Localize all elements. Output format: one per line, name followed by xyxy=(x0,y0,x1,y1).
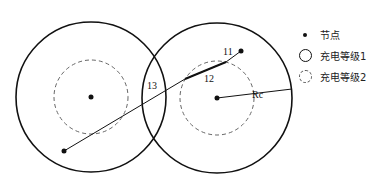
legend-item-node: 节点 xyxy=(295,24,366,45)
node-right-center xyxy=(215,96,220,101)
node-left-center xyxy=(89,95,94,100)
label-rc: Rc xyxy=(252,89,264,100)
legend-label: 充电等级1 xyxy=(320,48,366,63)
label-l1: 11 xyxy=(223,46,233,57)
legend-item-level2: 充电等级2 xyxy=(295,66,366,87)
solid-circle-icon xyxy=(295,48,315,64)
node-top-right xyxy=(239,49,244,54)
legend: 节点 充电等级1 充电等级2 xyxy=(295,24,366,87)
label-l3: 13 xyxy=(147,80,157,91)
dashed-circle-icon xyxy=(295,69,315,85)
legend-label: 充电等级2 xyxy=(320,69,366,84)
node-bottom-left xyxy=(62,149,67,154)
legend-label: 节点 xyxy=(320,27,340,42)
label-l2: 12 xyxy=(204,73,214,84)
legend-item-level1: 充电等级1 xyxy=(295,45,366,66)
dot-icon xyxy=(295,27,315,43)
